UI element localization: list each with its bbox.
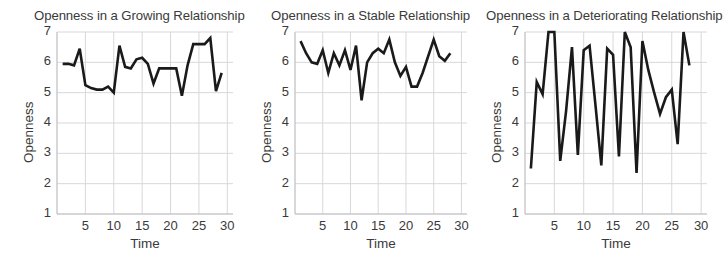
y-tick-label: 5 [273, 84, 289, 99]
y-axis-label: Openness [21, 101, 36, 163]
y-tick-label: 3 [35, 144, 51, 159]
chart-panel-growing: Openness in a Growing Relationship Openn… [0, 0, 245, 258]
y-tick-label: 1 [503, 205, 519, 220]
x-tick-label: 15 [601, 218, 625, 233]
chart-panel-stable: Openness in a Stable Relationship Openne… [245, 0, 483, 258]
y-tick-label: 7 [503, 23, 519, 38]
x-tick-label: 30 [215, 218, 239, 233]
x-tick-label: 10 [102, 218, 126, 233]
x-axis-label: Time [576, 236, 656, 251]
x-tick-label: 5 [311, 218, 335, 233]
x-tick-label: 30 [449, 218, 473, 233]
y-tick-label: 5 [503, 84, 519, 99]
y-tick-label: 4 [503, 114, 519, 129]
y-tick-label: 3 [503, 144, 519, 159]
x-tick-label: 15 [130, 218, 154, 233]
x-tick-label: 5 [73, 218, 97, 233]
x-tick-label: 25 [660, 218, 684, 233]
x-tick-label: 20 [394, 218, 418, 233]
chart-panel-deteriorating: Openness in a Deteriorating Relationship… [483, 0, 723, 258]
y-tick-label: 7 [35, 23, 51, 38]
x-axis-label: Time [105, 236, 185, 251]
y-axis-label: Openness [489, 101, 504, 163]
y-tick-label: 2 [273, 175, 289, 190]
x-tick-label: 25 [187, 218, 211, 233]
x-tick-label: 5 [542, 218, 566, 233]
y-tick-label: 4 [273, 114, 289, 129]
y-tick-label: 6 [503, 53, 519, 68]
y-tick-label: 4 [35, 114, 51, 129]
x-tick-label: 30 [689, 218, 713, 233]
y-tick-label: 2 [503, 175, 519, 190]
y-axis-label: Openness [259, 101, 274, 163]
y-tick-label: 3 [273, 144, 289, 159]
x-tick-label: 15 [366, 218, 390, 233]
x-axis-label: Time [341, 236, 421, 251]
x-tick-label: 20 [159, 218, 183, 233]
y-tick-label: 6 [35, 53, 51, 68]
y-tick-label: 1 [35, 205, 51, 220]
y-tick-label: 2 [35, 175, 51, 190]
x-tick-label: 10 [338, 218, 362, 233]
y-tick-label: 5 [35, 84, 51, 99]
x-tick-label: 10 [572, 218, 596, 233]
x-tick-label: 25 [422, 218, 446, 233]
y-tick-label: 6 [273, 53, 289, 68]
y-tick-label: 7 [273, 23, 289, 38]
figure-three-line-charts: Openness in a Growing Relationship Openn… [0, 0, 723, 258]
y-tick-label: 1 [273, 205, 289, 220]
x-tick-label: 20 [630, 218, 654, 233]
